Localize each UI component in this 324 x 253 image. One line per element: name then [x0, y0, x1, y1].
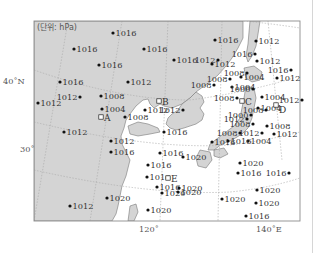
station-dot [251, 87, 254, 90]
pressure-label: 1012 [73, 201, 94, 211]
station: 1016 [236, 168, 261, 178]
station-dot [162, 130, 165, 133]
station-dot [245, 117, 248, 120]
station-dot [238, 161, 241, 164]
station: 1020 [220, 194, 245, 204]
station-dot [251, 122, 254, 125]
station-dot [146, 163, 149, 166]
point-marker [166, 176, 170, 180]
station-dot [255, 59, 258, 62]
station: 1016 [213, 35, 238, 45]
point-marker [99, 115, 103, 119]
station-dot [109, 150, 112, 153]
station-dot [264, 108, 267, 111]
point-letter: A [103, 113, 111, 123]
station: 1012 [254, 36, 279, 46]
station-dot [254, 39, 257, 42]
station-dot [143, 108, 146, 111]
station-dot [36, 101, 39, 104]
station-dot [99, 94, 102, 97]
pressure-label: 1016 [249, 211, 270, 221]
station-dot [172, 58, 175, 61]
station: 1012 [109, 136, 134, 146]
station-dot [62, 130, 65, 133]
pressure-label: 1016 [231, 136, 252, 146]
station-dot [272, 132, 275, 135]
pressure-label: 1016 [163, 148, 184, 158]
station: 1016 [58, 77, 83, 87]
point-letter: D [279, 105, 286, 115]
pressure-label: 1020 [225, 194, 246, 204]
station: 1020 [238, 158, 263, 168]
station-dot [72, 47, 75, 50]
station-dot [78, 95, 81, 98]
station-dot [181, 155, 184, 158]
pressure-label: 1012 [160, 105, 181, 115]
station-dot [212, 83, 215, 86]
station-dot [226, 139, 229, 142]
pressure-label: 1016 [218, 35, 239, 45]
station-dot [160, 191, 163, 194]
lon-label-120: 120˚ [139, 224, 159, 234]
station-dot [287, 171, 290, 174]
station-dot [142, 47, 145, 50]
pressure-label: 1016 [116, 28, 137, 38]
pressure-label: 1012 [224, 114, 245, 124]
station-dot [126, 80, 129, 83]
pressure-label: 1016 [167, 127, 188, 137]
station-dot [105, 196, 108, 199]
station-dot [220, 197, 223, 200]
station-dot [176, 190, 179, 193]
station-dot [255, 188, 258, 191]
point-letter: E [171, 174, 178, 184]
station-dot [253, 52, 256, 55]
pressure-label: 1012 [114, 136, 135, 146]
pressure-label: 1016 [114, 147, 135, 157]
pressure-label: 1016 [63, 77, 84, 87]
station: 1012 [272, 129, 297, 139]
pressure-label: 1020 [151, 205, 172, 215]
pressure-label: 1012 [260, 56, 281, 66]
station: 1016 [158, 148, 183, 158]
station: 1020 [176, 187, 201, 197]
station: 1016 [97, 60, 122, 70]
station: 1020 [105, 193, 130, 203]
pressure-label: 1008 [104, 91, 125, 101]
station-dot [111, 31, 114, 34]
point-letter: C [245, 97, 252, 107]
station-dot [254, 201, 257, 204]
station: 1012 [62, 127, 87, 137]
station-dot [210, 140, 213, 143]
pressure-label: 1020 [110, 193, 131, 203]
pressure-label: 1016 [77, 44, 98, 54]
pressure-label: 1012 [131, 77, 152, 87]
station-dot [236, 171, 239, 174]
station: 1016 [109, 147, 134, 157]
pressure-label: 1008 [214, 93, 235, 103]
station-dot [158, 151, 161, 154]
pressure-label: 1020 [260, 185, 281, 195]
pressure-label: 1012 [259, 36, 280, 46]
station-dot [109, 139, 112, 142]
station: 1016 [226, 136, 251, 146]
station-dot [244, 214, 247, 217]
station-dot [289, 68, 292, 71]
pressure-label: 1020 [243, 158, 264, 168]
station-dot [181, 108, 184, 111]
pressure-label: 1016 [147, 44, 168, 54]
station: 1020 [181, 152, 206, 162]
station-dot [300, 98, 303, 101]
station: 1004 [239, 72, 264, 82]
lat-label-30: 30˚ [20, 144, 35, 154]
station: 1012 [255, 56, 280, 66]
station-dot [213, 38, 216, 41]
unit-label: (단위: hPa) [37, 22, 77, 32]
station: 1016 [244, 211, 269, 221]
station: 1016 [142, 44, 167, 54]
station: 1008 [99, 91, 124, 101]
pressure-label: 1016 [241, 168, 262, 178]
station-dot [146, 208, 149, 211]
weather-map: (단위: hPa) 40˚N 30˚ 120˚ 140˚E 1016101610… [0, 0, 324, 253]
station: 1020 [254, 198, 279, 208]
station-dot [97, 63, 100, 66]
